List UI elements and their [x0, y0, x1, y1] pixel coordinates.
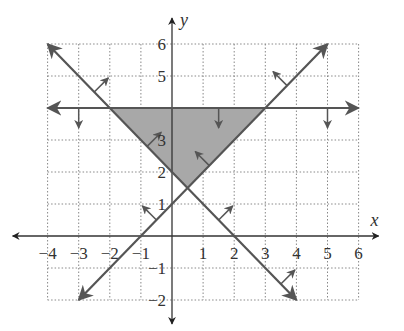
- y-tick-label: 6: [158, 35, 167, 54]
- x-tick-label: −4: [39, 244, 58, 263]
- y-tick-label: −2: [148, 291, 166, 310]
- shade-direction-arrow: [142, 206, 156, 220]
- y-axis-label: y: [178, 10, 188, 30]
- y-tick-label: 5: [158, 67, 167, 86]
- x-tick-label: 1: [199, 244, 208, 263]
- x-tick-label: 3: [261, 244, 270, 263]
- y-tick-label: 2: [158, 163, 167, 182]
- x-axis-label: x: [370, 210, 379, 230]
- y-tick-label: 3: [158, 131, 167, 150]
- x-tick-label: −2: [101, 244, 119, 263]
- inequality-graph: −4−3−2−1123456−2−112356 x y: [0, 0, 404, 331]
- x-tick-label: −3: [70, 244, 88, 263]
- shade-direction-arrow: [273, 71, 287, 85]
- x-tick-label: 6: [354, 244, 363, 263]
- shade-direction-arrow: [94, 78, 108, 92]
- x-tick-label: 4: [292, 244, 301, 263]
- y-tick-label: 1: [158, 195, 167, 214]
- feasible-region: [110, 108, 265, 188]
- x-tick-label: 5: [323, 244, 332, 263]
- shade-direction-arrow: [281, 270, 295, 284]
- x-tick-label: 2: [230, 244, 239, 263]
- shade-direction-arrow: [219, 206, 233, 220]
- y-tick-label: −1: [148, 259, 166, 278]
